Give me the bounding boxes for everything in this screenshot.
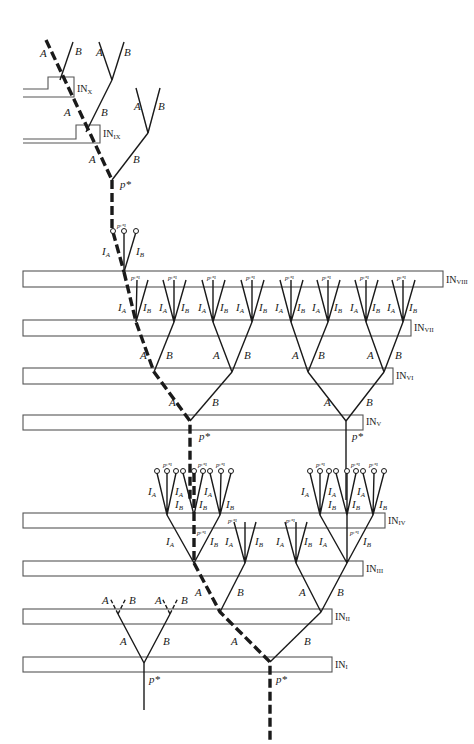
svg-text:B: B (318, 349, 325, 361)
zone-boxes (23, 77, 443, 672)
svg-text:B: B (133, 153, 140, 165)
svg-text:IA: IA (197, 301, 207, 315)
branching-diagram: INX INIX INVIII INVII INVI INV INIV INII… (0, 0, 474, 744)
svg-text:IB: IB (408, 301, 418, 315)
lower-labels: pᵗ⁺¹ pᵗ⁺¹ pᵗ⁺¹ pᵗ⁺¹ pᵗ⁺¹ pᵗ⁺¹ IA IA IA I… (101, 462, 388, 685)
svg-text:B: B (304, 635, 311, 647)
svg-text:IA: IA (274, 301, 284, 315)
zone-label-x: INX (77, 83, 93, 95)
svg-text:B: B (163, 635, 170, 647)
svg-text:B: B (101, 106, 108, 118)
zone-labels: INX INIX INVIII INVII INVI INV INIV INII… (77, 83, 468, 670)
svg-text:A: A (88, 153, 96, 165)
svg-text:IA: IA (101, 245, 111, 259)
zone-label-v: INV (366, 416, 382, 427)
svg-text:IA: IA (349, 301, 359, 315)
svg-text:pᵗ⁺¹: pᵗ⁺¹ (167, 275, 177, 281)
zone-label-vi: INVI (396, 370, 413, 381)
svg-text:pᵗ⁺¹: pᵗ⁺¹ (321, 275, 331, 281)
svg-text:A: A (39, 47, 47, 59)
svg-text:IB: IB (351, 498, 361, 512)
svg-text:IB: IB (333, 301, 343, 315)
svg-text:A: A (154, 594, 162, 606)
svg-text:B: B (124, 46, 131, 58)
mid-upper-tree (111, 229, 416, 501)
svg-text:pᵗ⁺¹: pᵗ⁺¹ (197, 462, 207, 468)
svg-text:IA: IA (158, 301, 168, 315)
svg-text:B: B (395, 349, 402, 361)
svg-text:IB: IB (219, 301, 229, 315)
svg-text:IA: IA (327, 485, 337, 499)
svg-text:IB: IB (296, 301, 306, 315)
svg-text:A: A (168, 396, 176, 408)
svg-text:B: B (166, 349, 173, 361)
zone-box-viii (23, 271, 443, 287)
svg-text:IB: IB (378, 498, 388, 512)
svg-text:IB: IB (371, 301, 381, 315)
svg-text:IB: IB (258, 301, 268, 315)
svg-text:A: A (212, 349, 220, 361)
svg-text:p*: p* (119, 178, 132, 190)
svg-text:IB: IB (362, 535, 372, 549)
zone-box-vi (23, 368, 393, 384)
zone-label-viii: INVIII (446, 274, 468, 285)
svg-text:IB: IB (209, 535, 219, 549)
zone-label-i: INI (335, 659, 348, 670)
zone-label-iv: INIV (388, 515, 406, 526)
svg-text:pᵗ⁺¹: pᵗ⁺¹ (396, 275, 406, 281)
lower-tree (110, 469, 387, 741)
svg-text:B: B (337, 586, 344, 598)
svg-text:A: A (133, 100, 141, 112)
svg-text:p*: p* (198, 430, 211, 442)
fan-labels-row-vii: IA IB IA IB IA IB IA IB IA IB IA IB IA I… (117, 301, 418, 315)
svg-text:IB: IB (142, 301, 152, 315)
svg-text:IA: IA (147, 485, 157, 499)
svg-text:IA: IA (224, 535, 234, 549)
svg-text:p*: p* (351, 430, 364, 442)
zone-label-ix: INIX (103, 128, 121, 140)
svg-text:pᵗ⁺¹: pᵗ⁺¹ (315, 462, 325, 468)
svg-text:B: B (212, 396, 219, 408)
svg-text:p*: p* (275, 673, 288, 685)
svg-text:pᵗ⁺¹: pᵗ⁺¹ (206, 275, 216, 281)
zone-box-i (23, 657, 332, 672)
zone-box-iv (23, 513, 385, 528)
svg-text:IA: IA (275, 535, 285, 549)
svg-text:IA: IA (174, 485, 184, 499)
svg-text:pᵗ⁺¹: pᵗ⁺¹ (368, 462, 378, 468)
svg-text:pᵗ⁺¹: pᵗ⁺¹ (284, 275, 294, 281)
svg-text:IA: IA (203, 485, 213, 499)
svg-text:pᵗ⁺¹: pᵗ⁺¹ (359, 275, 369, 281)
svg-text:IA: IA (235, 301, 245, 315)
svg-text:A: A (291, 349, 299, 361)
svg-text:IA: IA (386, 301, 396, 315)
svg-text:A: A (119, 635, 127, 647)
svg-text:pᵗ⁺¹: pᵗ⁺¹ (349, 530, 359, 536)
svg-text:A: A (366, 349, 374, 361)
svg-text:pᵗ⁺¹: pᵗ⁺¹ (350, 462, 360, 468)
svg-text:IA: IA (300, 485, 310, 499)
svg-text:pᵗ⁺¹: pᵗ⁺¹ (215, 462, 225, 468)
svg-text:A: A (139, 349, 147, 361)
svg-text:IB: IB (180, 301, 190, 315)
svg-text:A: A (323, 396, 331, 408)
svg-text:IB: IB (174, 498, 184, 512)
svg-text:IB: IB (254, 535, 264, 549)
svg-text:A: A (63, 106, 71, 118)
svg-text:B: B (181, 594, 188, 606)
svg-text:p*: p* (148, 673, 161, 685)
zone-box-ii (23, 609, 332, 624)
svg-text:B: B (75, 45, 82, 57)
svg-text:B: B (158, 100, 165, 112)
svg-text:A: A (298, 586, 306, 598)
svg-text:B: B (129, 594, 136, 606)
svg-text:A: A (101, 594, 109, 606)
svg-text:IB: IB (135, 245, 145, 259)
svg-text:IA: IA (117, 301, 127, 315)
zone-label-vii: INVII (414, 322, 434, 333)
zone-label-ii: INII (335, 611, 350, 622)
zone-box-iii (23, 561, 363, 576)
pnext-labels-row-viii: pᵗ⁺¹ pᵗ⁺¹ pᵗ⁺¹ pᵗ⁺¹ pᵗ⁺¹ pᵗ⁺¹ pᵗ⁺¹ pᵗ⁺¹ (130, 275, 406, 281)
svg-text:IA: IA (318, 535, 328, 549)
svg-text:pᵗ⁺¹: pᵗ⁺¹ (196, 530, 206, 536)
